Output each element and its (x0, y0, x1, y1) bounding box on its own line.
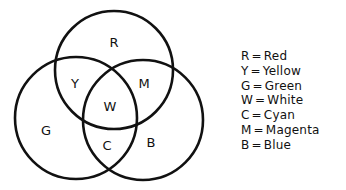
venn-diagram: R Y M W G C B (0, 0, 230, 190)
legend-equals: = (254, 123, 264, 137)
region-label-magenta: M (138, 76, 149, 91)
region-label-green: G (41, 123, 51, 138)
legend-key: G (241, 79, 251, 93)
legend-key: C (241, 108, 250, 122)
legend-color-name: Red (264, 49, 287, 63)
legend-equals: = (252, 108, 262, 122)
legend-equals: = (252, 49, 262, 63)
legend-equals: = (255, 93, 265, 107)
legend-key: W (241, 93, 253, 107)
region-label-yellow: Y (70, 76, 79, 91)
legend-color-name: Cyan (264, 108, 295, 122)
legend-key: R (241, 49, 250, 63)
legend-color-name: Green (265, 79, 302, 93)
legend-equals: = (251, 64, 261, 78)
region-label-red: R (109, 35, 118, 50)
color-legend: R=Red Y=Yellow G=Green W=White C=Cyan M=… (241, 49, 320, 153)
legend-item-cyan: C=Cyan (241, 108, 320, 123)
legend-color-name: Blue (264, 138, 291, 152)
legend-item-yellow: Y=Yellow (241, 64, 320, 79)
region-label-blue: B (147, 135, 156, 150)
legend-equals: = (253, 79, 263, 93)
legend-key: Y (241, 64, 249, 78)
legend-key: M (241, 123, 252, 137)
legend-item-white: W=White (241, 93, 320, 108)
legend-key: B (241, 138, 249, 152)
legend-color-name: Magenta (266, 123, 320, 137)
legend-item-blue: B=Blue (241, 138, 320, 153)
region-label-white: W (104, 99, 117, 114)
legend-color-name: White (267, 93, 303, 107)
region-label-cyan: C (102, 138, 111, 153)
legend-equals: = (251, 138, 261, 152)
legend-item-red: R=Red (241, 49, 320, 64)
legend-color-name: Yellow (263, 64, 301, 78)
legend-item-green: G=Green (241, 79, 320, 94)
legend-item-magenta: M=Magenta (241, 123, 320, 138)
